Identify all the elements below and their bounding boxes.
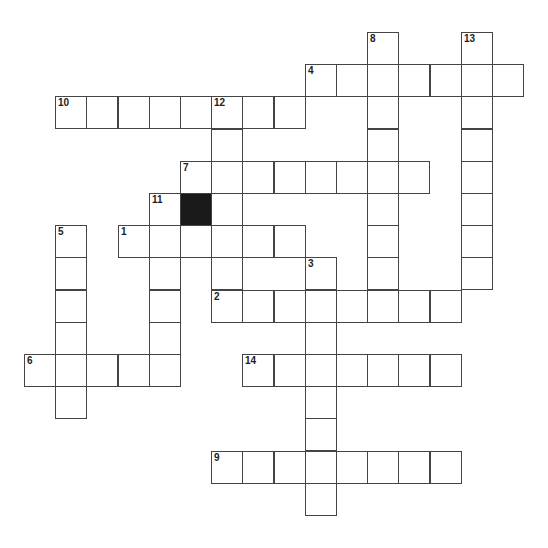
clue-number: 7 — [183, 163, 189, 173]
grid-cell[interactable] — [305, 322, 337, 355]
grid-cell[interactable] — [55, 386, 87, 419]
grid-cell[interactable] — [336, 64, 368, 97]
grid-cell[interactable] — [367, 96, 399, 129]
grid-cell[interactable] — [211, 225, 243, 258]
grid-cell[interactable] — [367, 193, 399, 226]
grid-cell[interactable] — [211, 129, 243, 162]
grid-cell[interactable] — [149, 322, 181, 355]
grid-cell[interactable] — [149, 354, 181, 387]
clue-number: 8 — [370, 34, 376, 44]
grid-cell[interactable]: 14 — [242, 354, 274, 387]
grid-cell[interactable] — [461, 161, 493, 194]
grid-cell[interactable] — [149, 290, 181, 323]
crossword-grid: 1234567891012111314 — [0, 0, 548, 548]
grid-cell[interactable] — [305, 418, 337, 451]
grid-cell[interactable]: 12 — [211, 96, 243, 129]
grid-cell[interactable] — [242, 96, 274, 129]
grid-cell[interactable] — [55, 290, 87, 323]
grid-cell[interactable]: 10 — [55, 96, 87, 129]
grid-cell[interactable]: 2 — [211, 290, 243, 323]
grid-cell[interactable]: 8 — [367, 32, 399, 65]
grid-cell[interactable] — [305, 451, 337, 484]
grid-cell[interactable]: 5 — [55, 225, 87, 258]
grid-cell[interactable] — [336, 290, 368, 323]
grid-cell[interactable] — [242, 290, 274, 323]
grid-cell[interactable] — [461, 193, 493, 226]
grid-cell[interactable] — [242, 225, 274, 258]
grid-cell[interactable]: 11 — [149, 193, 181, 226]
grid-cell[interactable] — [55, 257, 87, 290]
black-cell — [180, 193, 212, 226]
grid-cell[interactable] — [55, 354, 87, 387]
grid-cell[interactable] — [274, 96, 306, 129]
grid-cell[interactable] — [305, 161, 337, 194]
grid-cell[interactable] — [398, 64, 430, 97]
grid-cell[interactable] — [367, 354, 399, 387]
grid-cell[interactable] — [398, 451, 430, 484]
grid-cell[interactable] — [180, 96, 212, 129]
clue-number: 13 — [464, 34, 475, 44]
grid-cell[interactable]: 3 — [305, 257, 337, 290]
grid-cell[interactable] — [211, 193, 243, 226]
clue-number: 3 — [308, 259, 314, 269]
grid-cell[interactable] — [305, 290, 337, 323]
grid-cell[interactable] — [118, 354, 150, 387]
grid-cell[interactable] — [305, 386, 337, 419]
grid-cell[interactable] — [398, 290, 430, 323]
clue-number: 11 — [152, 195, 163, 205]
grid-cell[interactable]: 7 — [180, 161, 212, 194]
grid-cell[interactable] — [461, 96, 493, 129]
grid-cell[interactable] — [305, 354, 337, 387]
grid-cell[interactable] — [367, 290, 399, 323]
grid-cell[interactable] — [461, 257, 493, 290]
grid-cell[interactable]: 13 — [461, 32, 493, 65]
grid-cell[interactable] — [430, 451, 462, 484]
grid-cell[interactable] — [398, 161, 430, 194]
grid-cell[interactable] — [211, 257, 243, 290]
grid-cell[interactable] — [86, 96, 118, 129]
grid-cell[interactable] — [274, 225, 306, 258]
grid-cell[interactable] — [242, 161, 274, 194]
grid-cell[interactable] — [461, 129, 493, 162]
clue-number: 6 — [27, 356, 33, 366]
grid-cell[interactable]: 9 — [211, 451, 243, 484]
grid-cell[interactable] — [149, 96, 181, 129]
grid-cell[interactable] — [336, 161, 368, 194]
grid-cell[interactable]: 4 — [305, 64, 337, 97]
grid-cell[interactable] — [367, 161, 399, 194]
grid-cell[interactable] — [430, 290, 462, 323]
grid-cell[interactable] — [211, 161, 243, 194]
grid-cell[interactable] — [461, 225, 493, 258]
grid-cell[interactable] — [242, 451, 274, 484]
clue-number: 9 — [214, 453, 220, 463]
grid-cell[interactable] — [180, 225, 212, 258]
clue-number: 4 — [308, 66, 314, 76]
grid-cell[interactable]: 6 — [24, 354, 56, 387]
grid-cell[interactable] — [274, 354, 306, 387]
grid-cell[interactable] — [118, 96, 150, 129]
grid-cell[interactable]: 1 — [118, 225, 150, 258]
clue-number: 14 — [245, 356, 256, 366]
grid-cell[interactable] — [274, 161, 306, 194]
grid-cell[interactable] — [86, 354, 118, 387]
grid-cell[interactable] — [492, 64, 524, 97]
grid-cell[interactable] — [398, 354, 430, 387]
grid-cell[interactable] — [430, 354, 462, 387]
grid-cell[interactable] — [149, 257, 181, 290]
grid-cell[interactable] — [367, 129, 399, 162]
grid-cell[interactable] — [274, 290, 306, 323]
clue-number: 10 — [58, 98, 69, 108]
grid-cell[interactable] — [336, 451, 368, 484]
grid-cell[interactable] — [274, 451, 306, 484]
grid-cell[interactable] — [367, 257, 399, 290]
grid-cell[interactable] — [367, 451, 399, 484]
grid-cell[interactable] — [149, 225, 181, 258]
clue-number: 5 — [58, 227, 64, 237]
grid-cell[interactable] — [430, 64, 462, 97]
grid-cell[interactable] — [367, 225, 399, 258]
grid-cell[interactable] — [336, 354, 368, 387]
grid-cell[interactable] — [461, 64, 493, 97]
grid-cell[interactable] — [305, 483, 337, 516]
grid-cell[interactable] — [367, 64, 399, 97]
grid-cell[interactable] — [55, 322, 87, 355]
